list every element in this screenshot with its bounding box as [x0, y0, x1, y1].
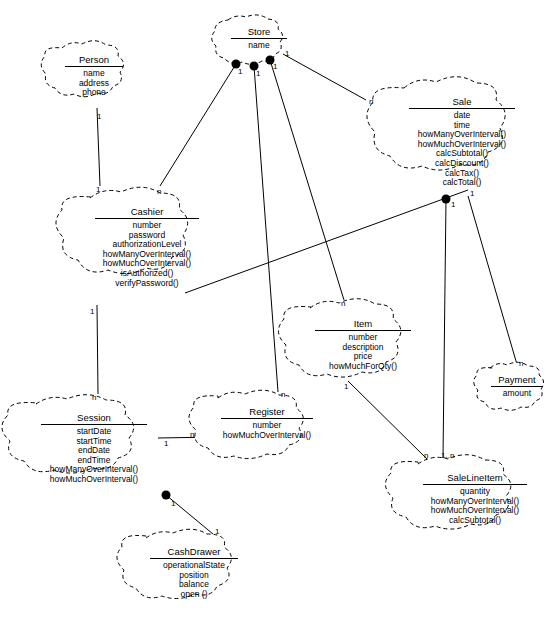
class-register[interactable]: Register number howMuchOverInterval()	[212, 406, 322, 440]
class-cashier[interactable]: Cashier number password authorizationLev…	[84, 206, 210, 288]
class-cashier-members: number password authorizationLevel howMa…	[84, 221, 210, 288]
class-store[interactable]: Store name	[222, 26, 296, 51]
multiplicity-label: n	[157, 188, 161, 196]
class-sale[interactable]: Sale date time howManyOverInterval() how…	[398, 96, 526, 188]
class-item-members: number description price howMuchForQty()	[304, 333, 422, 371]
class-person[interactable]: Person name address phone	[56, 54, 132, 98]
multiplicity-label: 1	[344, 383, 348, 391]
class-store-divider	[231, 38, 287, 39]
class-register-members: number howMuchOverInterval()	[212, 421, 322, 440]
multiplicity-label: n	[92, 394, 96, 402]
assoc-store-sale	[283, 54, 366, 100]
assoc-store-cashier	[160, 64, 236, 186]
class-register-name: Register	[212, 406, 322, 418]
multiplicity-label: 1	[256, 70, 260, 78]
class-register-divider	[221, 418, 313, 419]
multiplicity-label: 1	[97, 113, 101, 121]
assoc-cashier-sale	[185, 190, 468, 293]
assoc-cashier-session	[97, 305, 98, 394]
assoc-sale-salelineitem	[443, 199, 446, 458]
assoc-store-item	[270, 60, 344, 300]
assoc-store-register	[254, 66, 278, 392]
class-session-name: Session	[30, 412, 158, 424]
multiplicity-label: 1..n	[441, 452, 454, 460]
assoc-item-salelineitem	[348, 381, 427, 459]
class-session-divider	[41, 424, 147, 425]
multiplicity-label: 1	[451, 201, 455, 209]
multiplicity-label: 1	[171, 500, 175, 508]
multiplicity-label: n	[519, 360, 523, 368]
member-howmuchoverinterval: howMuchOverInterval()	[30, 475, 158, 485]
member-phone: phone	[56, 88, 132, 98]
class-store-name: Store	[222, 26, 296, 38]
multiplicity-label: 1	[238, 68, 242, 76]
multiplicity-label: n	[341, 300, 345, 308]
multiplicity-label: n	[369, 98, 373, 106]
member-howmuchforqty: howMuchForQty()	[304, 362, 422, 372]
class-salelineitem-name: SaleLineItem	[412, 472, 538, 484]
uml-class-diagram-canvas: Store name Person name address phone Sal…	[0, 0, 559, 634]
member-name: name	[248, 40, 269, 50]
class-person-members: name address phone	[56, 69, 132, 98]
member-howmuchoverinterval: howMuchOverInterval()	[212, 431, 322, 441]
aggregation-marker-sale-salelineitem	[442, 195, 451, 204]
multiplicity-label: n	[190, 431, 194, 439]
class-item-divider	[315, 330, 411, 331]
class-salelineitem[interactable]: SaleLineItem quantity howManyOverInterva…	[412, 472, 538, 525]
member-amount: amount	[503, 388, 531, 398]
class-cashdrawer[interactable]: CashDrawer operationalState position bal…	[140, 546, 248, 599]
class-person-divider	[65, 66, 123, 67]
class-sale-name: Sale	[398, 96, 526, 108]
class-sale-divider	[409, 108, 515, 109]
class-cashier-divider	[95, 218, 199, 219]
class-cashdrawer-members: operationalState position balance open (…	[140, 561, 248, 599]
assoc-sale-payment	[468, 196, 518, 368]
class-item[interactable]: Item number description price howMuchFor…	[304, 318, 422, 371]
multiplicity-label: 1	[273, 63, 277, 71]
class-salelineitem-members: quantity howManyOverInterval() howMuchOv…	[412, 487, 538, 525]
member-calctotal: calcTotal()	[398, 178, 526, 188]
member-open: open ()	[140, 590, 248, 600]
multiplicity-label: 1	[90, 308, 94, 316]
class-payment-name: Payment	[484, 374, 550, 386]
class-item-name: Item	[304, 318, 422, 330]
class-cashdrawer-name: CashDrawer	[140, 546, 248, 558]
multiplicity-label: 1	[96, 186, 100, 194]
multiplicity-label: 1	[164, 440, 168, 448]
multiplicity-label: n	[424, 452, 428, 460]
class-cashier-name: Cashier	[84, 206, 210, 218]
member-verifypassword: verifyPassword()	[84, 279, 210, 289]
class-session[interactable]: Session startDate startTime endDate endT…	[30, 412, 158, 485]
multiplicity-label: 1	[285, 50, 289, 58]
multiplicity-label: 1	[215, 528, 219, 536]
class-salelineitem-divider	[423, 484, 527, 485]
member-calcsubtotal: calcSubtotal()	[412, 516, 538, 526]
multiplicity-label: 1	[470, 190, 474, 198]
class-cashdrawer-divider	[150, 558, 238, 559]
class-sale-members: date time howManyOverInterval() howMuchO…	[398, 111, 526, 188]
class-payment-divider	[491, 386, 543, 387]
class-payment[interactable]: Payment amount	[484, 374, 550, 399]
class-session-members: startDate startTime endDate endTime howM…	[30, 427, 158, 485]
aggregation-marker-session-cashdrawer	[162, 491, 171, 500]
class-payment-members: amount	[484, 389, 550, 399]
class-person-name: Person	[56, 54, 132, 66]
multiplicity-label: n	[281, 391, 285, 399]
